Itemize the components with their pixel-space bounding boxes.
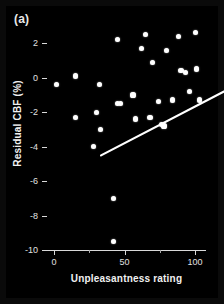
scatter-point — [111, 196, 116, 201]
scatter-point — [183, 70, 188, 75]
x-tick-mark — [195, 250, 196, 255]
x-tick-mark — [54, 250, 55, 255]
scatter-point — [73, 73, 78, 78]
scatter-point — [130, 92, 135, 97]
plot-area — [47, 26, 205, 250]
y-tick-label: -10 — [8, 246, 38, 255]
scatter-point — [161, 123, 166, 128]
scatter-point — [118, 101, 123, 106]
scatter-point — [194, 66, 199, 71]
scatter-point — [147, 115, 152, 120]
scatter-point — [97, 82, 102, 87]
scatter-point — [111, 239, 116, 244]
y-axis-title: Residual CBF (%) — [12, 64, 23, 184]
scatter-point — [94, 110, 99, 115]
scatter-point — [139, 46, 144, 51]
x-axis-line — [47, 250, 206, 251]
y-tick-label: -8 — [8, 212, 38, 221]
scatter-point — [176, 34, 181, 39]
scatter-point — [197, 97, 202, 102]
x-tick-mark — [125, 250, 126, 255]
x-axis-title: Unpleasantness rating — [47, 273, 206, 284]
figure-panel: (a) 20-2-4-6-8-10 050100 Residual CBF (%… — [0, 0, 224, 304]
x-tick-label: 50 — [110, 258, 140, 267]
panel-label: (a) — [14, 12, 29, 26]
y-tick-mark — [42, 250, 47, 251]
x-tick-minor — [89, 250, 90, 253]
x-tick-label: 0 — [39, 258, 69, 267]
y-tick-label: 2 — [8, 39, 38, 48]
x-tick-minor — [160, 250, 161, 253]
scatter-point — [73, 115, 78, 120]
scatter-point — [170, 97, 175, 102]
x-tick-label: 100 — [180, 258, 210, 267]
